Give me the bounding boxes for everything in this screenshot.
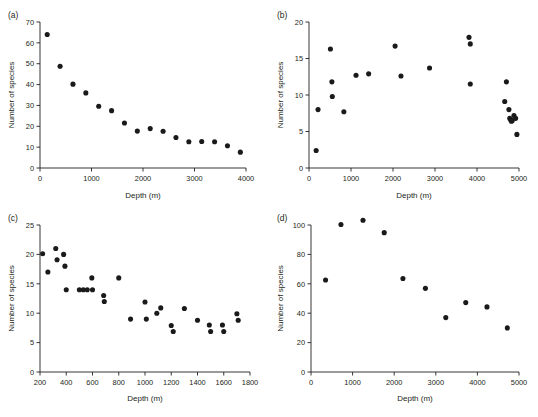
data-point (323, 277, 328, 282)
y-tick-label: 0 (30, 368, 34, 377)
y-tick-label: 40 (26, 80, 34, 89)
y-axis-title: Number of species (7, 265, 16, 332)
data-point (366, 71, 371, 76)
x-tick-label: 1600 (216, 378, 232, 387)
data-point (382, 230, 387, 235)
x-tick-label: 1800 (242, 378, 258, 387)
y-tick-label: 10 (26, 309, 34, 318)
data-point (423, 286, 428, 291)
y-tick-label: 50 (26, 59, 34, 68)
x-tick-label: 0 (38, 174, 42, 183)
data-point (83, 90, 88, 95)
x-tick-label: 4000 (469, 378, 485, 387)
data-point (116, 275, 121, 280)
data-point (328, 46, 333, 51)
panel-a: (a) 01020304050607001000200030004000Dept… (0, 0, 269, 209)
x-tick-label: 1000 (83, 174, 99, 183)
x-tick-label: 3000 (427, 174, 443, 183)
data-point (400, 276, 405, 281)
data-point (236, 318, 241, 323)
data-point (443, 315, 448, 320)
data-point (468, 82, 473, 87)
data-point (427, 65, 432, 70)
data-point (504, 79, 509, 84)
data-point (514, 132, 519, 137)
data-point (195, 318, 200, 323)
x-tick-label: 4000 (238, 174, 254, 183)
x-tick-label: 5000 (511, 174, 527, 183)
y-tick-label: 0 (30, 164, 34, 173)
data-point (466, 35, 471, 40)
data-point (144, 317, 149, 322)
data-point (330, 94, 335, 99)
data-point (468, 41, 473, 46)
data-point (90, 287, 95, 292)
y-tick-label: 10 (295, 91, 303, 100)
panel-a-plot: 01020304050607001000200030004000Depth (m… (0, 0, 269, 209)
x-tick-label: 1000 (344, 378, 360, 387)
x-tick-label: 0 (307, 174, 311, 183)
data-point (186, 139, 191, 144)
y-tick-label: 0 (299, 164, 303, 173)
data-point (398, 73, 403, 78)
data-point (169, 323, 174, 328)
data-point (513, 116, 518, 121)
figure-species-depth-scatter-grid: (a) 01020304050607001000200030004000Dept… (0, 0, 538, 417)
data-point (360, 218, 365, 223)
panel-b-plot: 05101520010002000300040005000Depth (m)Nu… (269, 0, 538, 209)
data-point (212, 139, 217, 144)
data-point (85, 287, 90, 292)
data-point (171, 329, 176, 334)
y-tick-label: 30 (26, 101, 34, 110)
data-point (238, 150, 243, 155)
data-point (234, 311, 239, 316)
x-tick-label: 5000 (511, 378, 527, 387)
x-axis-title: Depth (m) (125, 191, 161, 200)
data-point (158, 305, 163, 310)
data-point (102, 299, 107, 304)
y-tick-label: 20 (26, 250, 34, 259)
x-axis-title: Depth (m) (397, 394, 433, 403)
data-point (135, 129, 140, 134)
data-point (329, 79, 334, 84)
x-tick-label: 1400 (189, 378, 205, 387)
panel-d: (d) 020406080100010002000300040005000Dep… (269, 205, 538, 417)
y-tick-label: 40 (297, 309, 305, 318)
data-point (502, 99, 507, 104)
y-tick-label: 25 (26, 221, 34, 230)
y-tick-label: 15 (26, 280, 34, 289)
x-tick-label: 1000 (343, 174, 359, 183)
y-tick-label: 20 (26, 122, 34, 131)
data-point (161, 129, 166, 134)
y-tick-label: 20 (295, 18, 303, 27)
x-tick-label: 1000 (137, 378, 153, 387)
data-point (61, 252, 66, 257)
x-tick-label: 400 (60, 378, 72, 387)
data-point (207, 322, 212, 327)
data-point (353, 73, 358, 78)
data-point (58, 64, 63, 69)
data-point (53, 246, 58, 251)
y-tick-label: 10 (26, 143, 34, 152)
x-tick-label: 600 (86, 378, 98, 387)
data-point (506, 107, 511, 112)
data-point (148, 126, 153, 131)
data-point (45, 32, 50, 37)
data-point (62, 264, 67, 269)
x-axis-title: Depth (m) (127, 394, 163, 403)
y-tick-label: 80 (297, 250, 305, 259)
data-point (208, 329, 213, 334)
data-point (70, 82, 75, 87)
x-tick-label: 2000 (386, 378, 402, 387)
data-point (314, 148, 319, 153)
data-point (89, 275, 94, 280)
y-tick-label: 100 (293, 221, 305, 230)
data-point (101, 293, 106, 298)
x-tick-label: 200 (34, 378, 46, 387)
panel-c: (c) 051015202520040060080010001200140016… (0, 205, 269, 417)
data-point (96, 104, 101, 109)
data-point (199, 139, 204, 144)
panel-d-plot: 020406080100010002000300040005000Depth (… (269, 205, 538, 417)
data-point (225, 143, 230, 148)
x-axis-title: Depth (m) (396, 191, 432, 200)
